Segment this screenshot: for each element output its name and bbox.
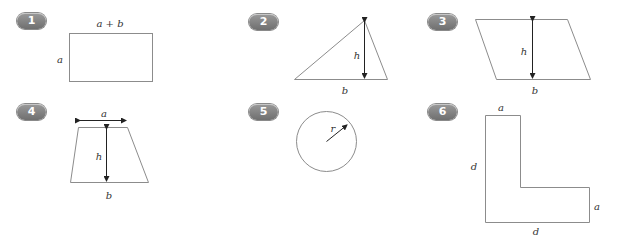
figure-1-rectangle: a + b a [57, 18, 152, 82]
figure-5-circle: r [297, 112, 357, 172]
geometry-figures: a + b a h b h b a h b r a d a d [0, 0, 617, 240]
figure-3-parallelogram: h b [476, 20, 591, 97]
figure-2-triangle: h b [295, 21, 388, 97]
label-top: a + b [96, 18, 123, 29]
figure-4-trapezoid: a h b [71, 108, 149, 201]
label-bottom: d [533, 226, 539, 237]
label-left: a [57, 54, 63, 65]
label-top: a [498, 102, 504, 113]
label-top: a [101, 108, 107, 119]
label-radius: r [331, 123, 337, 134]
label-right: a [594, 201, 600, 212]
radius-arrow [327, 125, 348, 142]
label-base: b [106, 190, 112, 201]
label-base: b [342, 85, 348, 96]
label-height: h [521, 46, 527, 57]
figure-6-l-shape: a d a d [471, 102, 600, 237]
label-base: b [532, 85, 538, 96]
label-left: d [471, 161, 477, 172]
label-height: h [96, 151, 102, 162]
label-height: h [354, 50, 360, 61]
